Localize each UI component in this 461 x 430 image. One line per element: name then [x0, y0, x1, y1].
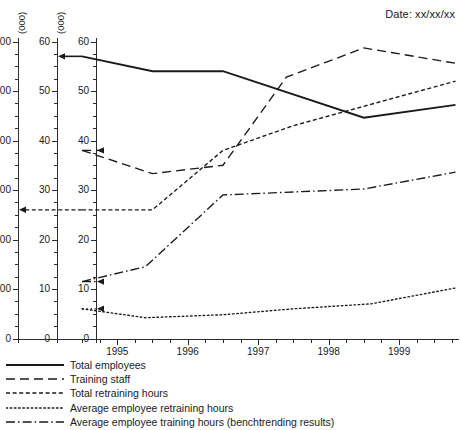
series-axis-arrowhead [97, 147, 104, 153]
x-axis-tick-label: 1995 [97, 347, 137, 357]
x-axis-minor-tick [452, 340, 453, 343]
x-axis-minor-tick [170, 340, 171, 343]
series-line [82, 48, 455, 174]
x-axis-tick-label: 1997 [238, 347, 278, 357]
x-axis-major-tick [399, 340, 400, 345]
series-2 [82, 48, 455, 174]
series-axis-arrowhead [19, 207, 26, 213]
legend-item-label: Total retraining hours [70, 387, 168, 399]
x-axis-major-tick [117, 340, 118, 345]
series-line [82, 56, 455, 117]
legend-item: Total employees [6, 358, 456, 372]
legend-line-sample [6, 415, 66, 429]
series-line [82, 81, 455, 210]
series-line [82, 172, 455, 281]
legend-item-label: Average employee retraining hours [70, 402, 233, 414]
legend-line-sample [6, 401, 66, 415]
x-axis-tick-label: 1998 [309, 347, 349, 357]
x-axis-minor-tick [417, 340, 418, 343]
legend-line-sample [6, 358, 66, 372]
series-1 [58, 53, 455, 118]
chart-legend: Total employeesTraining staffTotal retra… [6, 358, 456, 429]
x-axis-minor-tick [293, 340, 294, 343]
x-axis-minor-tick [205, 340, 206, 343]
legend-line-sample [6, 372, 66, 386]
x-axis-minor-tick [223, 340, 224, 343]
x-axis-major-tick [329, 340, 330, 345]
x-axis-minor-tick [82, 340, 83, 343]
series-4 [82, 288, 455, 318]
legend-item: Total retraining hours [6, 386, 456, 400]
x-axis-minor-tick [135, 340, 136, 343]
x-axis-minor-tick [381, 340, 382, 343]
series-line [82, 288, 455, 318]
x-axis-minor-tick [346, 340, 347, 343]
x-axis-spine [18, 339, 459, 340]
x-axis-minor-tick [364, 340, 365, 343]
x-axis-minor-tick [434, 340, 435, 343]
x-axis-major-tick [258, 340, 259, 345]
legend-item: Average employee retraining hours [6, 401, 456, 415]
legend-item-label: Training staff [70, 373, 130, 385]
legend-item: Training staff [6, 372, 456, 386]
x-axis-minor-tick [100, 340, 101, 343]
legend-line-sample [6, 386, 66, 400]
x-axis-minor-tick [241, 340, 242, 343]
x-axis-minor-tick [276, 340, 277, 343]
x-axis-major-tick [188, 340, 189, 345]
series-axis-arrowhead [58, 53, 65, 59]
legend-item-label: Average employee training hours (benchtr… [70, 416, 334, 428]
legend-item-label: Total employees [70, 359, 146, 371]
x-axis-minor-tick [152, 340, 153, 343]
legend-item: Average employee training hours (benchtr… [6, 415, 456, 429]
x-axis-minor-tick [311, 340, 312, 343]
series-axis-arrowhead [97, 278, 104, 284]
series-5 [82, 172, 455, 285]
x-axis-tick-label: 1996 [168, 347, 208, 357]
chart-page: Date: xx/xx/xx (000)6005004003002001000(… [0, 0, 461, 430]
x-axis-tick-label: 1999 [379, 347, 419, 357]
series-3 [19, 81, 455, 213]
